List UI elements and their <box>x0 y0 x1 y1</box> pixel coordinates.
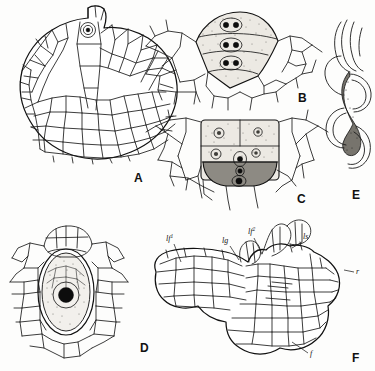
plate-canvas: A <box>0 0 375 371</box>
panel-letter-c: C <box>297 192 306 206</box>
panel-letter-b: B <box>298 91 307 105</box>
botanical-plate: A <box>0 0 375 371</box>
panel-letter-a: A <box>134 171 143 185</box>
label-ligule: lg <box>222 236 228 245</box>
panel-letter-f: F <box>352 351 359 365</box>
label-leaf-sheath: ls <box>303 232 308 241</box>
panel-letter-d: D <box>140 341 149 355</box>
panel-letter-e: E <box>352 188 360 202</box>
egg-nucleus <box>59 288 74 303</box>
